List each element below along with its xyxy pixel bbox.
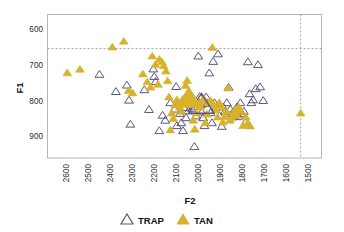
plot-canvas: 600700800900 260025002400230022002100200… (0, 0, 344, 232)
x-tick-label: 2400 (106, 164, 115, 183)
y-tick-label: 900 (29, 132, 43, 141)
x-tick-label: 1600 (282, 164, 291, 183)
y-tick-label: 600 (29, 25, 43, 34)
y-axis-ticks: 600700800900 (29, 25, 43, 142)
x-tick-label: 1500 (304, 164, 313, 183)
x-tick-label: 2100 (172, 164, 181, 183)
y-axis-title: F1 (14, 82, 25, 94)
x-tick-label: 2500 (84, 164, 93, 183)
legend: TRAP TAN (121, 214, 213, 226)
x-axis-ticks: 2600250024002300220021002000190018001700… (62, 164, 312, 183)
x-tick-label: 2300 (128, 164, 137, 183)
x-tick-label: 1800 (238, 164, 247, 183)
legend-label-trap: TRAP (138, 215, 165, 226)
x-tick-label: 1700 (260, 164, 269, 183)
x-tick-label: 2200 (150, 164, 159, 183)
x-tick-label: 1900 (216, 164, 225, 183)
y-tick-label: 700 (29, 61, 43, 70)
legend-marker-tan (177, 214, 189, 224)
x-tick-label: 2600 (62, 164, 71, 183)
x-tick-label: 2000 (194, 164, 203, 183)
legend-label-tan: TAN (194, 215, 213, 226)
x-axis-title: F2 (184, 195, 195, 206)
legend-marker-trap (121, 214, 133, 224)
y-tick-label: 800 (29, 97, 43, 106)
scatter-plot-figure: 600700800900 260025002400230022002100200… (0, 0, 344, 232)
